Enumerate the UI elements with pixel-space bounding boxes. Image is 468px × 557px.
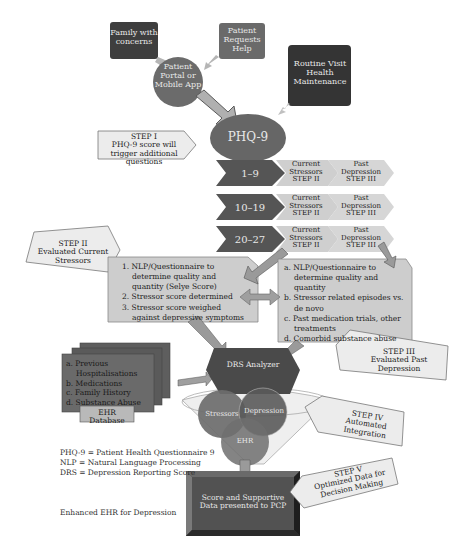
step3-item: b. Stressor related episodes vs. de novo — [284, 293, 406, 313]
phq9-label: PHQ-9 — [212, 131, 284, 144]
step2-list: 1. NLP/Questionnaire to determine qualit… — [122, 262, 248, 323]
step1-desc: PHQ-9 score will trigger additional ques… — [100, 141, 188, 166]
abbreviation-legend: PHQ-9 = Patient Health Questionnaire 9 N… — [60, 448, 215, 478]
step2-item: 1. NLP/Questionnaire to determine qualit… — [122, 262, 248, 292]
venn-stressors-label: Stressors — [200, 411, 244, 419]
step1-callout-text: STEP I PHQ-9 score will trigger addition… — [100, 133, 188, 166]
current-stressors-2: Current Stressors STEP II — [282, 195, 330, 218]
legend-nlp: NLP = Natural Language Processing — [60, 458, 215, 468]
step3-item: c. Past medication trials, other treatme… — [284, 314, 406, 334]
arrow-requests — [204, 55, 219, 70]
step3-desc: Evaluated Past Depression — [352, 356, 446, 373]
routine-visit-label: Routine Visit Health Maintenance — [290, 60, 350, 86]
arrow-routine — [278, 103, 290, 115]
step2-item: 2. Stressor score determined — [122, 292, 248, 302]
legend-phq9: PHQ-9 = Patient Health Questionnaire 9 — [60, 448, 215, 458]
ehr-item: d. Substance Abuse — [66, 398, 156, 408]
patient-portal-label: Patient Portal or Mobile App — [154, 63, 202, 89]
past-depression-2: Past Depression STEP III — [334, 195, 388, 218]
step2-item: 3. Stressor score weighed against depres… — [122, 303, 248, 323]
score-range-3: 20–27 — [222, 234, 278, 245]
venn-depression-label: Depression — [240, 408, 288, 416]
past-depression-3: Past Depression STEP III — [334, 227, 388, 250]
step3-item: a. NLP/Questionnaire to determine qualit… — [284, 263, 406, 293]
arrow-ehr-drs — [178, 372, 212, 386]
step3-callout-text: STEP III Evaluated Past Depression — [352, 348, 446, 373]
score-range-1: 1–9 — [222, 168, 278, 179]
score-range-2: 10–19 — [222, 202, 278, 213]
ehr-list: a. Previous Hospitalisations b. Medicati… — [66, 359, 156, 408]
step3-item: d. Comorbid substance abuse — [284, 334, 406, 344]
ehr-item: b. Medications — [66, 379, 156, 389]
ehr-database-label: EHR Database — [80, 409, 134, 426]
legend-drs: DRS = Depression Reporting Score — [60, 468, 215, 478]
output-label: Score and Supportive Data presented to P… — [196, 494, 290, 511]
drs-analyzer-label: DRS Analyzer — [218, 361, 288, 369]
current-stressors-3: Current Stressors STEP II — [282, 227, 330, 250]
current-stressors-1: Current Stressors STEP II — [282, 161, 330, 184]
figure-caption: Enhanced EHR for Depression — [60, 508, 176, 517]
step3-list: a. NLP/Questionnaire to determine qualit… — [284, 263, 406, 344]
ehr-item: c. Family History — [66, 388, 156, 398]
step2-desc: Evaluated Current Stressors — [30, 248, 116, 265]
step2-callout-text: STEP II Evaluated Current Stressors — [30, 240, 116, 265]
patient-requests-help-label: Patient Requests Help — [219, 27, 265, 53]
drs-hexagon — [206, 348, 300, 394]
past-depression-1: Past Depression STEP III — [334, 161, 388, 184]
family-with-concerns-label: Family with concerns — [110, 29, 158, 47]
ehr-item: a. Previous Hospitalisations — [66, 359, 156, 379]
venn-ehr-label: EHR — [228, 438, 262, 446]
